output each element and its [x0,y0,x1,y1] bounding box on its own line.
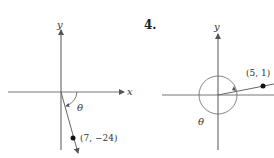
point-marker [261,84,266,89]
x-axis-label: x [127,86,133,97]
problem-number: 4. [144,18,157,32]
point-marker [71,136,76,141]
theta-label: θ [198,116,204,127]
y-axis-label: y [213,21,220,32]
figure-left: x y θ (7, −24) [8,19,133,153]
terminal-ray [218,84,274,95]
y-axis-label: y [56,19,63,30]
theta-label: θ [77,102,83,113]
point-label: (7, −24) [80,133,117,143]
angle-arc [66,92,77,106]
terminal-ray [61,92,78,153]
diagram-canvas: x y θ (7, −24) 4. y (5, 1) θ [0,0,274,158]
figure-right: 4. y (5, 1) θ [144,18,274,150]
point-label: (5, 1) [246,68,270,78]
